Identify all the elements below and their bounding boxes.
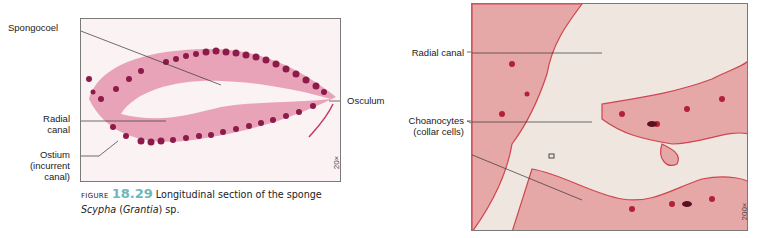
label-choanocytes: Choanocytes (collar cells) — [390, 115, 464, 137]
tissue-illustration — [472, 4, 748, 231]
label-choanocytes-line2: (collar cells) — [390, 126, 464, 137]
figure-number: 18.29 — [112, 186, 153, 201]
label-ostium-line1: Ostium — [18, 149, 70, 160]
label-choanocytes-line1: Choanocytes — [390, 115, 464, 126]
micrograph-longitudinal-section: 20× — [80, 18, 341, 182]
micrograph-choanocytes: 200× — [471, 3, 748, 231]
caption-open-paren: ( — [116, 204, 123, 215]
caption-alt-genus: Grantia — [123, 204, 159, 215]
figure-caption: Figure18.29Longitudinal section of the s… — [81, 187, 322, 216]
label-osculum: Osculum — [347, 95, 384, 106]
label-ostium: Ostium (incurrent canal) — [18, 149, 70, 182]
label-radial-canal-line1: Radial — [34, 113, 70, 124]
sponge-section-illustration — [81, 19, 341, 182]
label-ostium-line2: (incurrent — [18, 160, 70, 171]
caption-suffix: ) sp. — [159, 204, 180, 215]
caption-text: Longitudinal section of the sponge — [156, 189, 322, 200]
label-radial-canal-line2: canal — [34, 124, 70, 135]
magnification-label: 200× — [739, 202, 748, 220]
magnification-label: 20× — [333, 156, 341, 170]
label-spongocoel: Spongocoel — [8, 22, 58, 33]
label-radial-canal: Radial canal — [34, 113, 70, 135]
label-radial-canal-right: Radial canal — [400, 47, 464, 58]
label-ostium-line3: canal) — [18, 171, 70, 182]
caption-genus: Scypha — [81, 204, 116, 215]
caption-prefix: Figure — [81, 192, 109, 200]
